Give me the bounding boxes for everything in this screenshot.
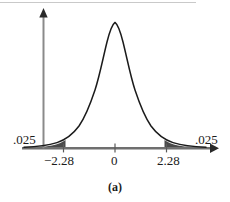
x-tick-label-positive: 2.28 xyxy=(157,154,180,167)
statistics-figure: .025 .025 −2.28 0 2.28 (a) xyxy=(0,0,230,202)
figure-caption: (a) xyxy=(0,180,230,195)
vertical-axis-arrowhead xyxy=(39,8,47,18)
density-curve xyxy=(24,22,206,147)
distribution-plot xyxy=(0,0,230,202)
x-tick-label-negative: −2.28 xyxy=(44,154,74,167)
x-tick-label-zero: 0 xyxy=(111,154,118,167)
right-tail-area-label: .025 xyxy=(195,133,218,146)
left-tail-area-label: .025 xyxy=(13,133,36,146)
